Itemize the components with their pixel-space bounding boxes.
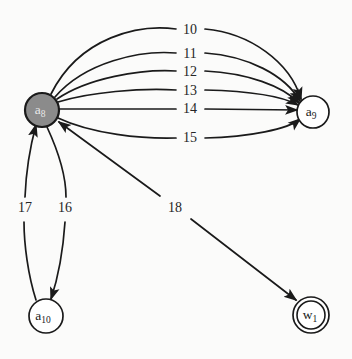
node-a8-subscript: 8 — [41, 109, 46, 119]
node-w1-subscript: 1 — [313, 314, 318, 324]
edge-12-path-right — [205, 71, 299, 103]
edge-label-11-text: 11 — [183, 46, 196, 61]
edge-label-14-text: 14 — [183, 101, 197, 116]
edge-label-14: 14 — [178, 100, 202, 119]
node-w1-base: w — [303, 307, 313, 322]
edge-label-13: 13 — [178, 82, 202, 101]
edge-16-path-upper — [47, 127, 66, 197]
edge-label-15: 15 — [178, 129, 202, 148]
node-a10-subscript: 10 — [41, 315, 51, 325]
edge-15-path-right — [205, 119, 300, 138]
edge-label-11: 11 — [178, 45, 202, 64]
edge-label-10: 10 — [178, 21, 202, 40]
edge-label-16-text: 16 — [58, 200, 72, 215]
edge-label-18-text: 18 — [168, 200, 182, 215]
edge-label-17: 17 — [13, 199, 37, 219]
edge-13-path-left — [58, 90, 176, 103]
edge-label-12: 12 — [178, 63, 202, 82]
edge-label-18: 18 — [163, 199, 187, 219]
node-a9[interactable]: a9 — [297, 96, 329, 128]
graph-svg: 10 11 12 13 14 15 16 17 — [0, 0, 352, 359]
edge-label-15-text: 15 — [183, 130, 197, 145]
node-w1[interactable]: w1 — [293, 297, 329, 333]
edge-17-path-lower — [24, 222, 36, 300]
edge-label-10-text: 10 — [183, 22, 197, 37]
edge-17-path-upper — [25, 125, 36, 197]
edge-label-16: 16 — [53, 199, 77, 219]
edge-14-path-right — [205, 109, 297, 110]
node-a9-subscript: 9 — [312, 111, 317, 121]
edge-label-12-text: 12 — [183, 64, 197, 79]
diagram-canvas: 10 11 12 13 14 15 16 17 — [0, 0, 352, 359]
edge-label-13-text: 13 — [183, 83, 197, 98]
edge-16-path-lower — [51, 222, 65, 299]
edge-10[interactable] — [51, 28, 301, 99]
edge-label-17-text: 17 — [18, 200, 32, 215]
edge-12-path-left — [57, 71, 176, 99]
edge-18-path-lower — [191, 219, 296, 300]
node-a10[interactable]: a10 — [29, 299, 63, 333]
node-a8[interactable]: a8 — [25, 93, 59, 127]
